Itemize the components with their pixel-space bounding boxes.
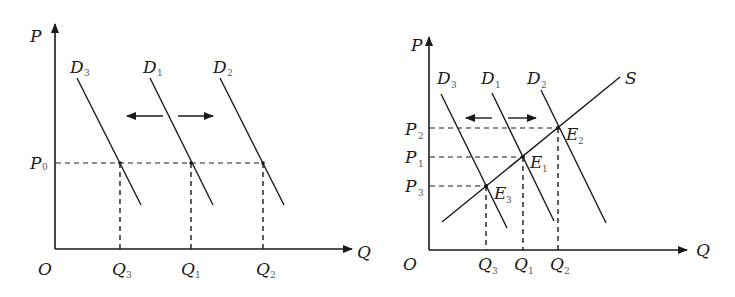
left-origin-label: O [38,259,52,279]
left-label-q2: Q 2 [256,259,276,280]
left-demand-curve-d2 [220,78,284,205]
left-point-d1-p0 [189,161,193,165]
left-point-d2-p0 [261,161,265,165]
svg-text:E: E [529,152,543,172]
right-demand-curve-d3 [441,94,507,228]
right-origin-label: O [403,254,417,274]
right-label-p2: P 2 [404,119,424,141]
svg-text:Q: Q [514,254,528,274]
svg-text:3: 3 [84,68,90,78]
right-label-d2: D 2 [526,68,547,90]
right-x-axis-label: Q [696,240,710,260]
svg-text:1: 1 [157,68,163,78]
right-label-p1: P 1 [404,147,424,169]
svg-text:P: P [404,147,417,167]
svg-text:3: 3 [492,266,498,276]
svg-text:D: D [526,68,541,88]
left-diagram: P Q O D 3 D 1 D 2 P 0 [29,24,371,280]
svg-text:Q: Q [112,259,126,279]
left-demand-curve-d3 [77,78,141,205]
svg-text:D: D [142,57,157,77]
right-equilibrium-point-e3 [484,184,488,188]
svg-text:0: 0 [42,162,48,172]
svg-text:P: P [404,119,417,139]
svg-text:Q: Q [256,259,270,279]
svg-text:1: 1 [542,164,548,174]
left-point-d3-p0 [118,161,122,165]
right-equilibrium-point-e1 [521,155,525,159]
svg-text:P: P [404,176,417,196]
right-label-s: S [625,68,637,88]
svg-text:E: E [565,124,579,144]
right-label-d1: D 1 [480,68,501,90]
left-x-axis-label: Q [357,242,371,262]
svg-text:3: 3 [126,270,132,280]
svg-text:2: 2 [541,80,547,90]
svg-text:D: D [436,68,451,88]
svg-text:3: 3 [506,195,512,205]
svg-text:2: 2 [227,68,233,78]
svg-text:D: D [69,57,84,77]
left-label-d1: D 1 [142,57,163,78]
left-label-d3: D 3 [69,57,90,78]
left-label-d2: D 2 [212,57,233,78]
left-y-axis-label: P [29,26,42,46]
right-label-e2: E 2 [565,124,584,146]
svg-text:2: 2 [270,270,276,280]
svg-text:1: 1 [495,80,501,90]
left-demand-curve-d1 [150,78,213,205]
left-label-p0: P 0 [29,153,48,173]
supply-demand-figure: P Q O D 3 D 1 D 2 P 0 [0,0,735,297]
right-label-p3: P 3 [404,176,424,198]
svg-text:2: 2 [578,136,584,146]
right-equilibrium-point-e2 [556,126,560,130]
right-y-axis-label: P [410,35,423,55]
svg-text:P: P [29,153,42,173]
svg-text:Q: Q [550,254,564,274]
svg-text:1: 1 [528,266,534,276]
svg-text:1: 1 [195,270,201,280]
svg-text:1: 1 [418,159,424,169]
svg-text:Q: Q [181,259,195,279]
right-diagram: P Q O S D 3 D 1 D 2 [403,35,710,276]
svg-text:2: 2 [418,131,424,141]
left-label-q1: Q 1 [181,259,201,280]
svg-text:Q: Q [478,254,492,274]
svg-text:3: 3 [451,80,457,90]
right-label-q1: Q 1 [514,254,534,276]
svg-text:2: 2 [564,266,570,276]
svg-text:D: D [212,57,227,77]
right-label-q2: Q 2 [550,254,570,276]
svg-text:3: 3 [418,188,424,198]
svg-text:E: E [493,183,507,203]
left-label-q3: Q 3 [112,259,132,280]
right-label-d3: D 3 [436,68,457,90]
right-label-e1: E 1 [529,152,548,174]
right-demand-curve-d2 [541,90,606,223]
right-label-q3: Q 3 [478,254,498,276]
svg-text:D: D [480,68,495,88]
right-label-e3: E 3 [493,183,512,205]
